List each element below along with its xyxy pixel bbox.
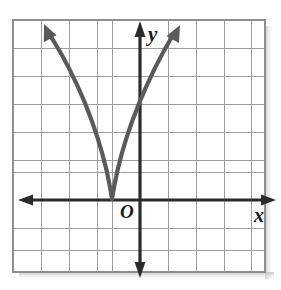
y-axis-label: y [148, 24, 157, 45]
x-axis-label: x [254, 205, 264, 225]
coordinate-plane-svg [0, 0, 281, 290]
graph-figure: y x O [0, 0, 281, 290]
origin-label: O [120, 202, 134, 221]
